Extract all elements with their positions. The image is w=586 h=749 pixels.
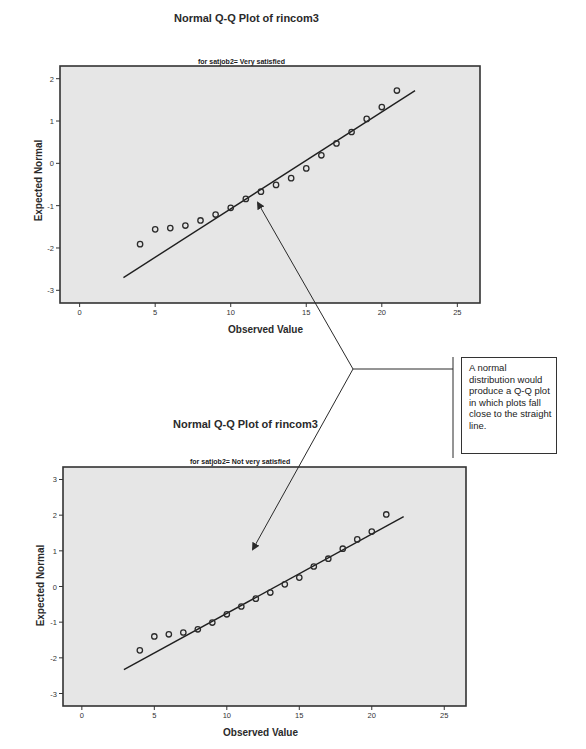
y-tick-label: 0	[53, 583, 57, 592]
chart-1-very-satisfied: 210-1-2-30510152025	[47, 66, 480, 317]
y-tick-label: 2	[50, 75, 54, 84]
y-tick-label: -1	[50, 618, 57, 627]
x-tick-label: 5	[153, 308, 157, 317]
x-tick-label: 15	[295, 711, 303, 720]
x-tick-label: 5	[152, 711, 156, 720]
annotation-callout-box: A normal distribution would produce a Q-…	[461, 357, 557, 454]
plot-area	[63, 467, 466, 706]
x-tick-label: 20	[368, 711, 376, 720]
x-tick-label: 0	[78, 308, 82, 317]
x-tick-label: 25	[440, 711, 448, 720]
x-tick-label: 15	[302, 308, 310, 317]
y-tick-label: 0	[50, 159, 54, 168]
y-tick-label: 1	[50, 117, 54, 126]
plot-area	[60, 66, 480, 303]
annotation-text: A normal distribution would produce a Q-…	[469, 362, 551, 431]
y-tick-label: 3	[53, 475, 57, 484]
y-tick-label: -2	[47, 244, 54, 253]
chart-2-not-very-satisfied: 3210-1-2-30510152025	[50, 467, 466, 720]
x-tick-label: 25	[453, 308, 461, 317]
y-tick-label: 2	[53, 511, 57, 520]
y-tick-label: 1	[53, 547, 57, 556]
y-tick-label: -3	[50, 690, 57, 699]
y-tick-label: -2	[50, 654, 57, 663]
x-tick-label: 10	[227, 308, 235, 317]
x-tick-label: 0	[80, 711, 84, 720]
y-tick-label: -3	[47, 286, 54, 295]
y-tick-label: -1	[47, 202, 54, 211]
x-tick-label: 20	[378, 308, 386, 317]
x-tick-label: 10	[223, 711, 231, 720]
